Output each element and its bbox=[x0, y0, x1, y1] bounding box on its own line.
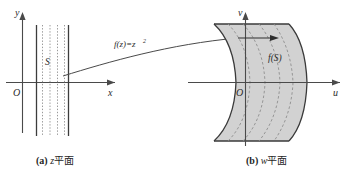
caption-b-rest: 平面 bbox=[267, 155, 287, 166]
mapping-label-base: f(z)=z bbox=[114, 39, 136, 49]
region-label-s: S bbox=[45, 57, 50, 67]
caption-a-rest: 平面 bbox=[54, 155, 74, 166]
panel-a-z-plane: y x O S bbox=[6, 7, 115, 136]
origin-label-a: O bbox=[13, 87, 20, 98]
region-s bbox=[37, 25, 69, 136]
caption-panel-a: (a) z平面 bbox=[36, 152, 74, 167]
figure-container: y x O S f(z)=z 2 bbox=[0, 0, 350, 180]
u-axis-label: u bbox=[333, 87, 338, 98]
y-axis bbox=[19, 12, 25, 133]
region-label-fs: f(S) bbox=[268, 53, 282, 64]
mapping-label-exponent: 2 bbox=[143, 38, 146, 44]
caption-a-tag: (a) bbox=[36, 155, 48, 166]
caption-b-tag: (b) bbox=[246, 155, 258, 166]
mapping-arrow bbox=[63, 35, 241, 76]
x-axis-label: x bbox=[107, 87, 113, 98]
y-axis-label: y bbox=[14, 7, 20, 18]
caption-panel-b: (b) w平面 bbox=[246, 152, 287, 167]
origin-label-b: O bbox=[236, 87, 243, 98]
region-s-hatch bbox=[43, 25, 65, 136]
v-axis-label: v bbox=[238, 7, 243, 18]
mapping-label: f(z)=z 2 bbox=[114, 38, 146, 50]
panel-b-w-plane: v u O f(S) bbox=[188, 7, 340, 146]
